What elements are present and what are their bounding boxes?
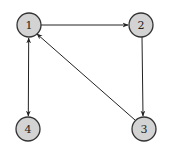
node-3: 3 [132, 117, 156, 141]
node-2: 2 [129, 13, 153, 37]
node-1: 1 [17, 13, 41, 37]
node-4-label: 4 [25, 123, 32, 136]
edge-3-to-1 [37, 34, 135, 120]
edge-2-to-3 [142, 37, 143, 116]
graph-diagram: 1 2 3 4 [0, 0, 170, 151]
node-2-label: 2 [138, 19, 145, 32]
node-3-label: 3 [141, 123, 148, 136]
node-4: 4 [16, 117, 40, 141]
node-1-label: 1 [26, 19, 33, 32]
